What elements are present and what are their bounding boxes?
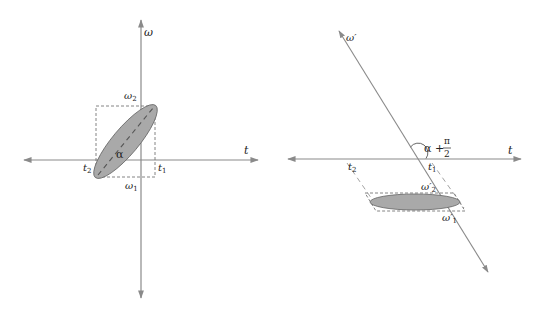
left-w1-label: ω1 bbox=[125, 180, 138, 193]
right-omega-prime-axis bbox=[339, 31, 488, 272]
left-t-label: t bbox=[244, 144, 249, 157]
right-angle-frac-num: π bbox=[444, 136, 450, 146]
right-angle-frac-den: 2 bbox=[444, 149, 450, 159]
right-panel: ω′ t α + π 2 t2 t1 ω′2 ω′1 bbox=[288, 31, 521, 272]
right-omega-prime-label: ω′ bbox=[346, 32, 357, 43]
left-panel: ω t ω2 ω1 t2 t1 α bbox=[24, 20, 258, 298]
left-w2-label: ω2 bbox=[124, 90, 137, 103]
right-w2-prime-label: ω′2 bbox=[421, 181, 436, 194]
time-frequency-diagram: ω t ω2 ω1 t2 t1 α ω′ t α + π 2 t2 t1 ω′2… bbox=[0, 0, 545, 314]
left-omega-label: ω bbox=[144, 26, 153, 39]
left-t1-label: t1 bbox=[158, 162, 167, 175]
right-t-label: t bbox=[508, 144, 513, 157]
right-angle-label: α + bbox=[424, 142, 444, 155]
right-ellipse bbox=[370, 194, 460, 210]
left-alpha-label: α bbox=[116, 148, 124, 161]
right-w1-prime-label: ω′1 bbox=[442, 212, 457, 225]
left-ellipse bbox=[85, 97, 165, 186]
left-t2-label: t2 bbox=[83, 162, 92, 175]
right-t2-label: t2 bbox=[348, 161, 357, 174]
